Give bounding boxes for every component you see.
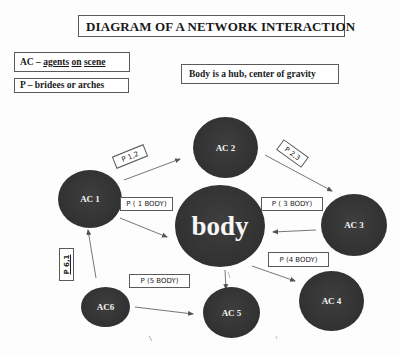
node-ac1-label: AC 1 xyxy=(80,194,100,204)
legend-p-box: P – bridees or arches xyxy=(14,78,129,93)
node-ac2-label: AC 2 xyxy=(216,143,236,153)
node-ac5: AC 5 xyxy=(203,287,260,338)
bridge-p12-text: P 1,2 xyxy=(120,149,139,163)
edge-body-ac5 xyxy=(225,270,226,289)
bridge-p23-text: P 2,3 xyxy=(283,145,302,162)
bridge-p1body-text: P ( 1 BODY) xyxy=(126,200,166,208)
node-ac1: AC 1 xyxy=(58,170,122,228)
bridge-label-p1body: P ( 1 BODY) xyxy=(120,197,173,211)
node-ac5-label: AC 5 xyxy=(222,308,242,318)
node-ac3-label: AC 3 xyxy=(344,220,364,230)
node-ac2: AC 2 xyxy=(193,117,258,178)
legend-ac-word-on: on xyxy=(71,57,81,67)
legend-ac-word-agents: agents xyxy=(43,57,69,67)
stray-mark xyxy=(276,336,277,339)
bridge-p5body-text: P (5 BODY) xyxy=(140,277,178,285)
diagram-title-box: DIAGRAM OF A NETWORK INTERACTION — — — —… xyxy=(78,15,345,37)
node-ac4: AC 4 xyxy=(299,271,364,331)
bridge-p3body-text: P ( 3 BODY) xyxy=(272,200,312,208)
edge-ac1-body xyxy=(120,218,167,237)
hub-note-box: Body is a hub, center of gravity xyxy=(181,64,339,84)
node-ac3: AC 3 xyxy=(321,194,387,256)
edge-body-ac4 xyxy=(252,266,295,281)
node-body-hub: body xyxy=(175,185,265,267)
node-ac6-label: AC6 xyxy=(97,302,115,312)
bridge-label-p12: P 1,2 xyxy=(112,144,148,169)
stray-mark xyxy=(228,272,230,278)
edge-ac3-body xyxy=(273,230,316,232)
legend-ac-box: AC – agents on scene xyxy=(14,52,130,72)
bridge-p61-text: P 6,1 xyxy=(63,255,71,275)
hub-note-text: Body is a hub, center of gravity xyxy=(189,69,316,79)
bridge-p4body-text: P (4 BODY) xyxy=(279,256,317,264)
edge-ac6-ac5 xyxy=(135,307,193,314)
network-diagram: DIAGRAM OF A NETWORK INTERACTION — — — —… xyxy=(0,0,399,357)
legend-p-text: P – bridees or arches xyxy=(20,80,104,90)
bridge-label-p61: P 6,1 xyxy=(59,248,74,281)
bridge-label-p4body: P (4 BODY) xyxy=(268,252,329,267)
node-body-label: body xyxy=(191,211,248,242)
bridge-label-p3body: P ( 3 BODY) xyxy=(261,197,323,211)
bridge-label-p5body: P (5 BODY) xyxy=(129,274,190,288)
node-ac6: AC6 xyxy=(81,287,130,327)
legend-ac-word-scene: scene xyxy=(84,57,106,67)
node-ac4-label: AC 4 xyxy=(322,296,342,306)
edge-ac6-ac1 xyxy=(88,230,96,278)
legend-ac-prefix: AC – xyxy=(20,57,43,67)
stray-mark xyxy=(149,336,152,341)
bridge-label-p23: P 2,3 xyxy=(276,139,309,168)
title-fine-print: — — — — — — — xyxy=(86,32,104,34)
diagram-title: DIAGRAM OF A NETWORK INTERACTION xyxy=(86,19,355,34)
